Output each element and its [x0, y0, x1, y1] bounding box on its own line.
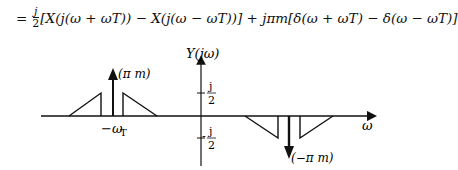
- tick-neg-num: j: [207, 125, 212, 138]
- neg-omega-t-sub: T: [120, 127, 127, 138]
- y-axis-label: Y(jω): [186, 46, 219, 61]
- impulse-neg-label: (−π m): [291, 151, 334, 165]
- tick-pos-den: 2: [208, 94, 215, 107]
- left-triangle-falling: [123, 93, 157, 116]
- tick-pos-num: j: [207, 80, 212, 93]
- arrow-up-icon: [108, 68, 118, 80]
- x-axis-label: ω: [362, 118, 373, 133]
- tick-neg-den: 2: [208, 139, 215, 152]
- tick-neg-prefix: -: [202, 130, 206, 143]
- left-triangle-rising: [69, 93, 101, 116]
- right-triangle-rising: [300, 116, 333, 138]
- impulse-pos-label: (π m): [118, 67, 151, 81]
- right-triangle-falling: [245, 116, 278, 138]
